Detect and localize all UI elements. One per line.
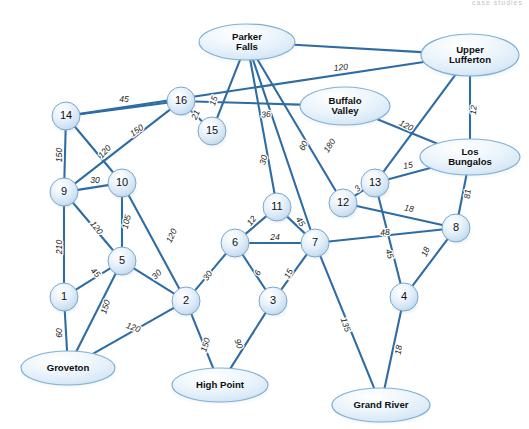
edge-weight-label: 120 xyxy=(125,320,142,334)
graph-edge xyxy=(250,60,274,193)
edge-weight-label: 18 xyxy=(393,344,404,355)
city-label: Grand River xyxy=(354,399,409,410)
network-graph: 12345678910111213141516ParkerFallsUpperL… xyxy=(0,0,529,429)
edge-weight-label: 24 xyxy=(269,232,280,242)
city-node[interactable]: Grand River xyxy=(330,388,432,426)
node-label: 10 xyxy=(116,176,128,188)
city-node[interactable]: Groveton xyxy=(19,351,117,389)
edge-weight-label: 6 xyxy=(252,268,263,277)
node-label: 9 xyxy=(61,185,67,197)
graph-edge xyxy=(412,239,447,286)
edge-weight-label: 150 xyxy=(54,148,64,163)
node-label: 16 xyxy=(175,94,187,106)
edge-weight-label: 18 xyxy=(419,245,432,258)
edge-weight-label: 36 xyxy=(261,109,272,120)
numbered-node[interactable]: 1 xyxy=(50,283,80,315)
edge-weight-label: 105 xyxy=(120,213,133,230)
edge-weight-label: 60 xyxy=(297,139,310,152)
node-label: 6 xyxy=(232,236,238,248)
node-label: 11 xyxy=(271,200,282,212)
node-label: 1 xyxy=(61,290,67,302)
city-label: ParkerFalls xyxy=(232,30,262,52)
edge-weight-label: 60 xyxy=(54,328,64,338)
numbered-node[interactable]: 12 xyxy=(329,189,359,221)
graph-edge xyxy=(357,206,443,225)
edge-weight-label: 120 xyxy=(333,62,349,73)
graph-edge xyxy=(217,60,240,118)
edge-weight-label: 12 xyxy=(468,104,479,115)
node-label: 7 xyxy=(312,236,318,248)
city-node[interactable]: UpperLufferton xyxy=(419,34,521,81)
node-label: 5 xyxy=(119,254,125,266)
numbered-node[interactable]: 7 xyxy=(301,229,331,261)
numbered-node[interactable]: 13 xyxy=(361,169,391,201)
edge-weight-label: 81 xyxy=(462,188,473,199)
edge-weight-label: 48 xyxy=(380,227,391,238)
edge-weight-label: 45 xyxy=(119,94,129,104)
city-label: High Point xyxy=(196,379,245,390)
node-label: 4 xyxy=(401,290,407,302)
numbered-node[interactable]: 4 xyxy=(390,283,420,315)
node-label: 15 xyxy=(206,124,218,136)
numbered-node[interactable]: 10 xyxy=(108,169,138,201)
node-label: 3 xyxy=(270,294,276,306)
graph-edge xyxy=(378,197,400,284)
numbered-node[interactable]: 8 xyxy=(442,214,472,246)
city-label: Groveton xyxy=(47,362,90,373)
edge-weight-label: 180 xyxy=(321,137,337,155)
edge-weight-label: 150 xyxy=(98,298,112,315)
graph-edge xyxy=(64,130,65,178)
node-label: 13 xyxy=(369,176,381,188)
node-label: 14 xyxy=(60,109,72,121)
node-label: 2 xyxy=(183,294,189,306)
edge-weight-label: 120 xyxy=(96,143,113,161)
graph-edge xyxy=(65,311,67,351)
edge-weight-label: 15 xyxy=(402,159,413,171)
city-node[interactable]: LosBungalos xyxy=(418,139,522,179)
city-label: BuffaloValley xyxy=(328,94,361,116)
numbered-node[interactable]: 14 xyxy=(52,102,82,134)
node-label: 8 xyxy=(453,221,459,233)
city-node[interactable]: BuffaloValley xyxy=(298,87,392,129)
edge-weight-label: 45 xyxy=(89,266,103,280)
numbered-node[interactable]: 5 xyxy=(108,247,138,279)
city-node[interactable]: High Point xyxy=(170,368,270,406)
numbered-node[interactable]: 2 xyxy=(172,287,202,319)
numbered-node[interactable]: 15 xyxy=(198,117,228,149)
edge-weight-label: 15 xyxy=(207,94,220,106)
graph-edge xyxy=(78,185,108,190)
edge-weight-label: 150 xyxy=(128,122,146,139)
edge-weight-label: 15 xyxy=(282,267,295,280)
numbered-node[interactable]: 11 xyxy=(263,193,293,225)
edge-weight-label: 210 xyxy=(54,240,64,256)
edge-weight-label: 120 xyxy=(164,227,179,244)
node-label: 12 xyxy=(337,196,349,208)
edge-weight-label: 30 xyxy=(90,175,100,185)
graph-edge xyxy=(294,45,421,52)
edge-weight-label: 18 xyxy=(403,202,415,214)
city-node[interactable]: ParkerFalls xyxy=(197,24,297,64)
edge-weight-label: 120 xyxy=(88,219,105,237)
numbered-node[interactable]: 3 xyxy=(259,287,289,319)
